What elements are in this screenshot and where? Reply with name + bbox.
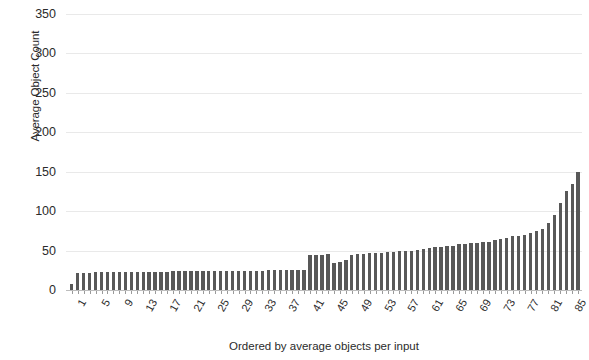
bar [207, 271, 210, 290]
x-tick-label: 49 [353, 297, 374, 322]
bar [165, 272, 168, 290]
x-tick-label: 81 [543, 297, 564, 322]
bar [422, 249, 425, 290]
x-tick-label: 69 [472, 297, 493, 322]
bar [487, 242, 490, 290]
bar [457, 244, 460, 290]
bar [344, 260, 347, 290]
bar [177, 271, 180, 290]
bar [279, 270, 282, 290]
bar [326, 254, 329, 290]
bar [416, 250, 419, 290]
bar [493, 240, 496, 290]
y-tick-label: 250 [22, 87, 56, 99]
bar [308, 255, 311, 290]
y-tick-label: 50 [22, 245, 56, 257]
x-tick-label: 73 [496, 297, 517, 322]
x-tick-label: 17 [162, 297, 183, 322]
bar [463, 244, 466, 290]
bar [535, 231, 538, 290]
bar [380, 253, 383, 290]
bar [142, 272, 145, 290]
bar [547, 223, 550, 290]
x-tick-label: 85 [567, 297, 588, 322]
bar [290, 270, 293, 290]
bar [106, 272, 109, 290]
bar [171, 271, 174, 290]
bar [332, 263, 335, 290]
bar [70, 284, 73, 290]
bar [451, 246, 454, 290]
y-tick-label: 350 [22, 8, 56, 20]
bar [511, 236, 514, 290]
bar [559, 203, 562, 290]
y-tick-label: 200 [22, 126, 56, 138]
x-tick-label: 21 [186, 297, 207, 322]
y-tick-label: 300 [22, 47, 56, 59]
bar [553, 215, 556, 290]
bar [469, 243, 472, 290]
bar [267, 270, 270, 290]
bar [225, 271, 228, 290]
bar [76, 273, 79, 290]
x-axis-tick-labels: 1591317212529333741454953576165697377818… [66, 293, 582, 333]
x-tick-label: 1 [67, 297, 88, 322]
x-tick-label: 45 [329, 297, 350, 322]
bar [368, 253, 371, 290]
bar [219, 271, 222, 290]
x-tick-label: 65 [448, 297, 469, 322]
bar [273, 270, 276, 290]
y-tick-label: 0 [22, 284, 56, 296]
bar [255, 271, 258, 290]
bar [338, 262, 341, 290]
bar [320, 255, 323, 290]
bar [541, 229, 544, 291]
bar [529, 233, 532, 290]
bar [100, 272, 103, 290]
bar [231, 271, 234, 290]
bar [565, 191, 568, 290]
bar [517, 236, 520, 290]
bar [195, 271, 198, 290]
bar [130, 272, 133, 290]
x-tick-label: 25 [210, 297, 231, 322]
x-tick-label: 53 [377, 297, 398, 322]
bar [356, 254, 359, 290]
bar [136, 272, 139, 290]
bar [237, 271, 240, 290]
bar [261, 271, 264, 290]
x-tick-label: 33 [257, 297, 278, 322]
bar [285, 270, 288, 290]
bar [302, 270, 305, 291]
bar [213, 271, 216, 290]
bar [428, 248, 431, 290]
x-axis-title: Ordered by average objects per input [66, 340, 582, 352]
bar [499, 239, 502, 290]
bar [445, 246, 448, 290]
bar [481, 242, 484, 290]
bar [475, 243, 478, 290]
bar [94, 272, 97, 290]
x-tick-label: 29 [234, 297, 255, 322]
x-tick-label: 5 [91, 297, 112, 322]
bar [314, 255, 317, 290]
y-tick-label: 150 [22, 166, 56, 178]
bar [362, 254, 365, 290]
bar [147, 272, 150, 290]
bar [88, 273, 91, 290]
bar [112, 272, 115, 290]
bar [392, 252, 395, 290]
bar [249, 271, 252, 290]
bar [571, 184, 574, 290]
bar [523, 235, 526, 290]
bar [243, 271, 246, 290]
bar [153, 272, 156, 290]
bar [433, 247, 436, 290]
x-tick-label: 57 [400, 297, 421, 322]
x-tick-label: 41 [305, 297, 326, 322]
bar [118, 272, 121, 290]
bar [410, 251, 413, 290]
bar [82, 273, 85, 290]
bar [124, 272, 127, 290]
